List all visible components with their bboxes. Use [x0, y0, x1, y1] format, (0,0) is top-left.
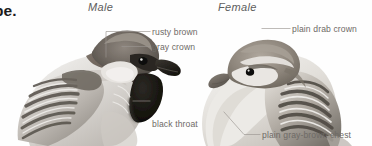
callout-plain-drab-crown: plain drab crown — [292, 24, 357, 35]
callout-rusty-brown: rusty brown — [152, 27, 198, 38]
leader-rusty-brown — [106, 32, 150, 58]
leader-plain-chest — [224, 112, 260, 135]
callout-black-throat-line1: black throat — [152, 119, 198, 130]
bleed-body-text: be. — [0, 2, 17, 20]
callout-plain-gray-brown-chest: plain gray-brown chest — [262, 130, 351, 141]
callout-gray-crown: gray crown — [152, 42, 195, 53]
header-male: Male — [88, 1, 113, 13]
bird-identification-plate: be. Male Female rusty brown gray crown b… — [0, 0, 372, 146]
header-female: Female — [218, 1, 257, 13]
callout-black-throat: black throat and chest — [152, 96, 198, 146]
